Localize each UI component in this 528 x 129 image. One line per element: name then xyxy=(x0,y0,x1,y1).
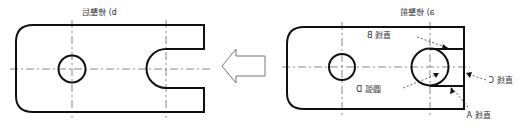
panel-b-outline xyxy=(16,25,204,112)
line-c-label: 直线 C xyxy=(488,75,513,85)
panel-a-caption: a) 修整前 xyxy=(400,7,435,17)
line-a-label: 直线 A xyxy=(466,110,491,120)
panel-b-caption: b) 修整后 xyxy=(82,7,117,17)
panel-a: a) 修整前 直线 B 圆弧 D 直线 C 直线 A xyxy=(282,7,513,120)
panel-b-centerlines xyxy=(10,20,212,118)
trim-diagram: b) 修整后 a) 修整前 xyxy=(0,0,528,129)
line-b-label: 直线 B xyxy=(367,30,391,40)
arc-d-label: 圆弧 D xyxy=(356,84,381,94)
left-arrow-icon xyxy=(222,49,265,83)
panel-b: b) 修整后 xyxy=(10,7,212,118)
